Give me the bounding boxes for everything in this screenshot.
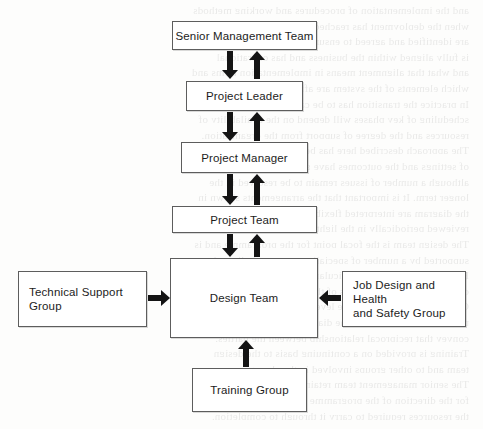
arrow-shaft [148, 295, 162, 301]
arrow-team-to-manager [249, 174, 265, 205]
arrow-shaft [254, 242, 260, 257]
arrow-shaft [243, 348, 249, 367]
node-senior-management-team: Senior Management Team [172, 21, 317, 50]
node-project-team: Project Team [172, 206, 317, 233]
arrow-shaft [227, 112, 233, 133]
organisation-flow-chart: and the implementation of procedures and… [0, 0, 483, 429]
arrow-manager-to-team [222, 174, 238, 205]
arrow-smt-to-leader [222, 51, 238, 79]
node-training-group: Training Group [192, 368, 307, 412]
arrow-head [249, 112, 265, 121]
arrow-shaft [327, 295, 341, 301]
node-label: Project Leader [206, 89, 283, 103]
node-label: Senior Management Team [176, 29, 314, 43]
node-project-leader: Project Leader [186, 81, 303, 111]
arrow-shaft [227, 174, 233, 197]
show-through-text-line: although a number of issues remain to be… [18, 176, 469, 186]
show-through-text-line: and the implementation of procedures and… [18, 4, 469, 14]
arrow-head [249, 174, 265, 183]
arrow-shaft [254, 120, 260, 141]
arrow-shaft [227, 51, 233, 71]
node-label: Project Manager [201, 151, 288, 165]
arrow-team-to-design [222, 234, 238, 257]
node-project-manager: Project Manager [181, 142, 308, 173]
arrow-head [319, 290, 328, 306]
arrow-head [222, 248, 238, 257]
show-through-text-line: The design team is the focal point for t… [18, 238, 469, 248]
arrow-job-design-to-design [319, 290, 341, 306]
arrow-shaft [254, 59, 260, 79]
arrow-head [222, 132, 238, 141]
show-through-text-line: longer term. It is important that the ar… [18, 191, 469, 201]
show-through-text-line: and what that alignment means in impleme… [18, 66, 469, 76]
arrow-technical-to-design [148, 290, 170, 306]
arrow-leader-to-smt [249, 51, 265, 79]
arrow-manager-to-leader [249, 112, 265, 141]
arrow-training-to-design [238, 340, 254, 367]
node-technical-support-group: Technical Support Group [18, 271, 147, 327]
node-label: Project Team [210, 213, 279, 227]
show-through-text-line: scheduling of key phases will depend on … [18, 113, 469, 123]
arrow-shaft [254, 182, 260, 205]
arrow-leader-to-manager [222, 112, 238, 141]
node-design-team: Design Team [170, 258, 318, 338]
node-job-design-and-health-and-safety-group: Job Design and Health and Safety Group [342, 271, 466, 327]
node-label: Job Design and Health and Safety Group [353, 278, 465, 320]
arrow-shaft [227, 234, 233, 249]
arrow-head [222, 70, 238, 79]
node-label: Training Group [210, 383, 288, 397]
show-through-text-line: is fully aligned within the business and… [18, 51, 469, 61]
arrow-design-to-team [249, 234, 265, 257]
arrow-head [222, 196, 238, 205]
node-label: Technical Support Group [29, 285, 123, 313]
arrow-head [238, 340, 254, 349]
arrow-head [249, 51, 265, 60]
arrow-head [161, 290, 170, 306]
node-label: Design Team [210, 291, 279, 305]
show-through-text-line: resources and the degree of support from… [18, 129, 469, 139]
arrow-head [249, 234, 265, 243]
